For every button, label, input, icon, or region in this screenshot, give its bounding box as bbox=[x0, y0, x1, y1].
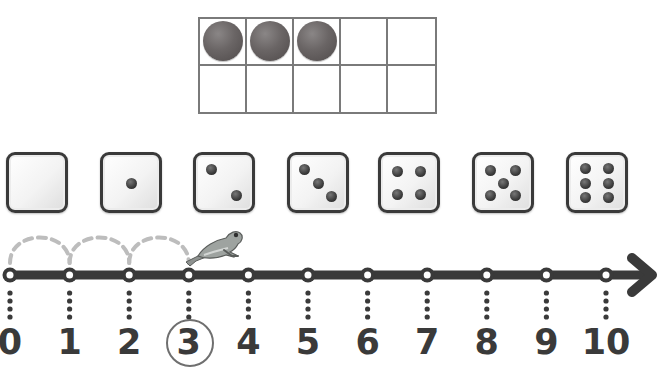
tick-dot bbox=[365, 306, 370, 311]
tick-dot bbox=[544, 290, 549, 295]
tick-dot bbox=[67, 290, 72, 295]
node-center bbox=[66, 272, 73, 279]
tick-dot bbox=[484, 314, 489, 319]
tick-dot bbox=[7, 314, 12, 319]
number-label-0: 0 bbox=[0, 322, 35, 362]
tick-dot bbox=[127, 290, 132, 295]
tick-dot bbox=[484, 298, 489, 303]
tick-dot bbox=[186, 306, 191, 311]
tick-dot bbox=[365, 298, 370, 303]
jump-arc bbox=[10, 238, 70, 264]
tick-dot bbox=[7, 290, 12, 295]
number-label-1: 1 bbox=[45, 322, 95, 362]
tick-dot bbox=[603, 314, 608, 319]
node-center bbox=[424, 272, 431, 279]
jump-arc bbox=[129, 238, 189, 264]
tick-dot bbox=[246, 290, 251, 295]
tick-dot bbox=[544, 314, 549, 319]
tick-dot bbox=[127, 314, 132, 319]
tick-dot bbox=[305, 314, 310, 319]
jump-arcs bbox=[10, 238, 189, 264]
node-center bbox=[7, 272, 14, 279]
tick-dot bbox=[603, 290, 608, 295]
node-center bbox=[483, 272, 490, 279]
node-center bbox=[126, 272, 133, 279]
tick-dot bbox=[544, 298, 549, 303]
tick-dot bbox=[305, 298, 310, 303]
number-label-9: 9 bbox=[521, 322, 571, 362]
number-label-7: 7 bbox=[402, 322, 452, 362]
highlight-circle bbox=[166, 319, 214, 367]
tick-dot bbox=[365, 290, 370, 295]
tick-dot bbox=[425, 290, 430, 295]
number-label-4: 4 bbox=[223, 322, 273, 362]
number-label-6: 6 bbox=[343, 322, 393, 362]
jump-arc bbox=[70, 238, 130, 264]
tick-dot bbox=[246, 314, 251, 319]
node-center bbox=[185, 272, 192, 279]
number-label-5: 5 bbox=[283, 322, 333, 362]
tick-dot bbox=[305, 306, 310, 311]
number-line bbox=[0, 0, 663, 377]
number-label-8: 8 bbox=[462, 322, 512, 362]
tick-dot bbox=[246, 298, 251, 303]
tick-dot bbox=[484, 306, 489, 311]
tick-dot bbox=[425, 298, 430, 303]
node-center bbox=[305, 272, 312, 279]
tick-dot bbox=[186, 298, 191, 303]
tick-dot bbox=[365, 314, 370, 319]
tick-dot bbox=[544, 306, 549, 311]
node-center bbox=[603, 272, 610, 279]
number-label-2: 2 bbox=[104, 322, 154, 362]
tick-dot bbox=[7, 306, 12, 311]
tick-dot bbox=[127, 298, 132, 303]
tick-dot bbox=[603, 306, 608, 311]
tick-dots bbox=[7, 290, 608, 319]
tick-dot bbox=[67, 298, 72, 303]
node-center bbox=[364, 272, 371, 279]
tick-dot bbox=[425, 306, 430, 311]
tick-dot bbox=[67, 314, 72, 319]
tick-dot bbox=[246, 306, 251, 311]
tick-dot bbox=[7, 298, 12, 303]
tick-dot bbox=[127, 306, 132, 311]
node-center bbox=[543, 272, 550, 279]
number-label-10: 10 bbox=[576, 322, 636, 362]
tick-dot bbox=[425, 314, 430, 319]
node-center bbox=[245, 272, 252, 279]
tick-dot bbox=[305, 290, 310, 295]
tick-dot bbox=[603, 298, 608, 303]
tick-dot bbox=[67, 306, 72, 311]
tick-dot bbox=[484, 290, 489, 295]
tick-dot bbox=[186, 290, 191, 295]
frog-icon bbox=[186, 232, 242, 266]
